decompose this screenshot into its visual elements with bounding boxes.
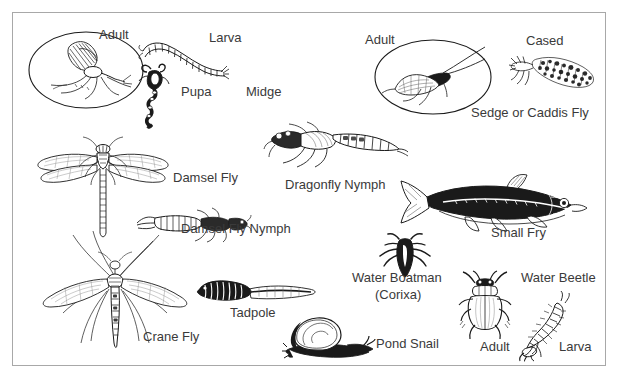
poster-frame: Adult	[12, 12, 606, 366]
midge-pupa-illustration	[135, 63, 181, 129]
label-caddis-cased: Cased	[526, 33, 564, 48]
pond-life-identification-poster: Adult	[0, 0, 620, 380]
label-damsel-fly-nymph: Damsel Fly Nymph	[181, 221, 291, 236]
cased-caddis-illustration	[507, 49, 599, 97]
label-water-boatman-alt: (Corixa)	[375, 287, 421, 302]
label-damsel-fly: Damsel Fly	[173, 170, 238, 185]
label-caddis-adult: Adult	[365, 32, 395, 47]
dragonfly-nymph-figure	[263, 121, 409, 173]
label-dragonfly-nymph: Dragonfly Nymph	[285, 177, 385, 192]
label-midge-larva: Larva	[209, 30, 242, 45]
dragonfly-nymph-illustration	[263, 121, 409, 173]
label-water-beetle-larva: Larva	[559, 339, 592, 354]
pond-snail-illustration	[285, 315, 375, 363]
label-caddis-name: Sedge or Caddis Fly	[471, 105, 589, 120]
label-water-beetle-adult: Adult	[480, 339, 510, 354]
label-midge-adult: Adult	[99, 27, 129, 42]
cased-caddis-figure	[507, 49, 599, 97]
label-midge-name: Midge	[246, 84, 281, 99]
water-beetle-adult-illustration	[457, 271, 513, 343]
water-beetle-adult-figure	[457, 271, 513, 343]
midge-pupa-figure	[135, 63, 181, 129]
label-pond-snail: Pond Snail	[376, 336, 439, 351]
pond-snail-figure	[285, 315, 375, 363]
label-water-beetle: Water Beetle	[521, 270, 596, 285]
label-tadpole: Tadpole	[230, 305, 276, 320]
label-crane-fly: Crane Fly	[143, 329, 199, 344]
label-water-boatman: Water Boatman	[352, 270, 442, 285]
label-midge-pupa: Pupa	[181, 84, 211, 99]
label-small-fry: Small Fry	[491, 225, 546, 240]
